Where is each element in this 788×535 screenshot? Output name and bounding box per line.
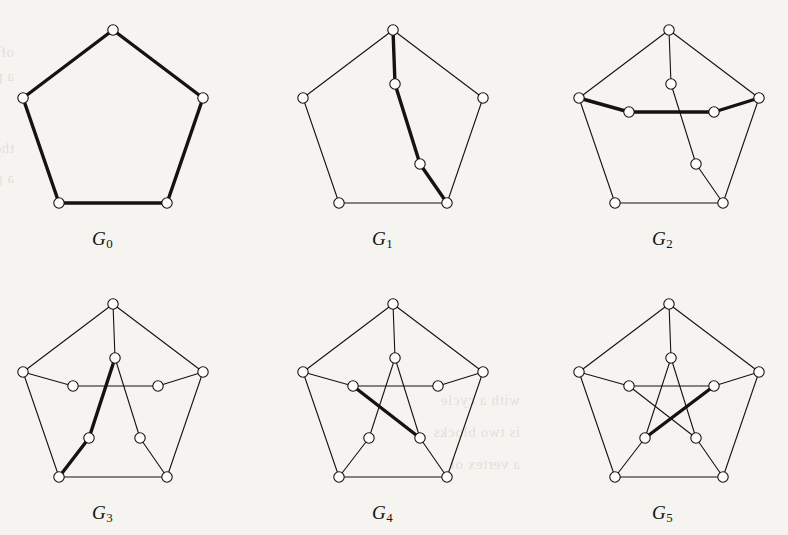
graph-vertex	[162, 198, 172, 208]
graph-vertex	[718, 198, 728, 208]
graph-vertex	[624, 381, 634, 391]
caption-letter: G	[92, 502, 106, 523]
graph-edge	[303, 372, 353, 386]
graph-edge	[447, 98, 483, 203]
graph-edge-bold	[113, 30, 203, 98]
graph-vertex	[390, 353, 400, 363]
graph-edge	[671, 84, 696, 164]
graph-vertex	[610, 472, 620, 482]
graph-vertex	[198, 93, 208, 103]
graph-edge	[723, 372, 759, 477]
graph-edge	[696, 164, 723, 203]
caption-letter: G	[92, 228, 106, 249]
graph-edge	[23, 372, 73, 386]
graph-edge	[579, 372, 629, 386]
figure-sheet: of the graph and the set of edgesa penta…	[0, 0, 788, 535]
graph-vertex	[334, 472, 344, 482]
graph-edge-bold	[714, 98, 759, 112]
graph-edge	[393, 304, 395, 358]
graph-edge	[579, 304, 669, 372]
graph-vertex	[388, 25, 398, 35]
caption-subscript: 4	[386, 510, 393, 525]
graph-vertex	[108, 25, 118, 35]
graph-edge	[447, 372, 483, 477]
graph-edge-bold	[23, 98, 59, 203]
caption-letter: G	[652, 228, 666, 249]
graph-edge	[115, 358, 140, 438]
graph-g5	[574, 299, 764, 482]
caption-subscript: 0	[106, 236, 113, 251]
graph-edge-bold	[59, 438, 89, 477]
graph-vertex	[162, 472, 172, 482]
graph-edge	[669, 304, 759, 372]
graph-vertex	[478, 93, 488, 103]
graph-caption-g3: G3	[92, 502, 113, 526]
graph-vertex	[415, 159, 425, 169]
graph-vertex	[54, 198, 64, 208]
graph-figure-canvas	[0, 0, 788, 535]
graph-edge	[669, 304, 671, 358]
graph-edge	[158, 372, 203, 386]
graph-edge-bold	[395, 84, 420, 164]
graph-caption-g4: G4	[372, 502, 393, 526]
graph-vertex	[691, 159, 701, 169]
graph-vertex	[718, 472, 728, 482]
caption-subscript: 3	[106, 510, 113, 525]
graph-vertex	[709, 107, 719, 117]
graph-g4	[298, 299, 488, 482]
graph-edge-bold	[579, 98, 629, 112]
graph-vertex	[108, 299, 118, 309]
graph-edge	[645, 358, 671, 438]
graph-vertex	[298, 93, 308, 103]
graph-vertex	[664, 25, 674, 35]
graph-edge	[303, 304, 393, 372]
graph-edge-bold	[353, 386, 420, 438]
graph-caption-g0: G0	[92, 228, 113, 252]
graph-edge	[339, 438, 369, 477]
graph-edge	[393, 304, 483, 372]
graph-g0	[18, 25, 208, 208]
graph-edge	[579, 98, 615, 203]
graph-edge	[438, 372, 483, 386]
graph-edge	[303, 98, 339, 203]
graph-vertex	[442, 472, 452, 482]
graph-edge	[113, 304, 115, 358]
graph-vertex	[610, 198, 620, 208]
graph-vertex	[442, 198, 452, 208]
graph-g2	[574, 25, 764, 208]
graph-edge	[629, 386, 696, 438]
graph-edge	[669, 30, 671, 84]
graph-edge	[303, 30, 393, 98]
graph-vertex	[153, 381, 163, 391]
graph-caption-g2: G2	[652, 228, 673, 252]
graph-edge	[714, 372, 759, 386]
caption-subscript: 5	[666, 510, 673, 525]
graph-edge	[395, 358, 420, 438]
graph-vertex	[390, 79, 400, 89]
graph-edge	[671, 358, 696, 438]
graph-vertex	[574, 93, 584, 103]
graph-vertex	[574, 367, 584, 377]
graph-caption-g1: G1	[372, 228, 393, 252]
caption-letter: G	[652, 502, 666, 523]
caption-subscript: 1	[386, 236, 393, 251]
graph-edge	[393, 30, 483, 98]
graph-edge	[140, 438, 167, 477]
graph-edge	[369, 358, 395, 438]
caption-subscript: 2	[666, 236, 673, 251]
graph-vertex	[198, 367, 208, 377]
graph-edge	[579, 372, 615, 477]
graph-edge-bold	[89, 358, 115, 438]
graph-vertex	[709, 381, 719, 391]
graph-vertex	[664, 299, 674, 309]
caption-letter: G	[372, 502, 386, 523]
graph-edge-bold	[167, 98, 203, 203]
graph-vertex	[666, 353, 676, 363]
graph-vertex	[478, 367, 488, 377]
graph-vertex	[666, 79, 676, 89]
graph-g1	[298, 25, 488, 208]
graph-vertex	[298, 367, 308, 377]
graph-edge	[420, 438, 447, 477]
graph-edge	[23, 372, 59, 477]
graph-vertex	[334, 198, 344, 208]
